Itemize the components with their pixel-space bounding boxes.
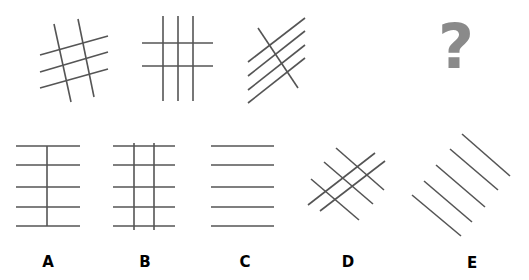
line-segment xyxy=(436,165,485,207)
line-segment xyxy=(40,52,108,72)
line-segment xyxy=(40,69,108,88)
option-label-c[interactable]: C xyxy=(239,255,250,270)
line-segment xyxy=(320,161,385,211)
option-figure-b[interactable] xyxy=(113,143,175,230)
line-segment xyxy=(324,162,373,204)
line-segment xyxy=(462,134,510,176)
option-label-e[interactable]: E xyxy=(467,256,477,271)
line-segment xyxy=(40,36,108,55)
sequence-figures xyxy=(40,16,305,103)
line-segment xyxy=(336,148,384,190)
option-figure-c[interactable] xyxy=(211,146,274,226)
option-figure-e[interactable] xyxy=(412,134,510,236)
line-segment xyxy=(248,31,305,76)
sequence-figure-3 xyxy=(248,18,305,103)
line-segment xyxy=(248,58,305,103)
sequence-figure-1 xyxy=(40,19,108,102)
option-label-b[interactable]: B xyxy=(139,255,150,270)
line-segment xyxy=(248,45,305,90)
option-figure-a[interactable] xyxy=(16,146,80,226)
option-figure-d[interactable] xyxy=(308,148,385,220)
line-segment xyxy=(412,195,461,236)
answer-options xyxy=(16,134,510,236)
question-mark-icon: ? xyxy=(438,16,474,78)
line-segment xyxy=(424,181,472,222)
option-label-d[interactable]: D xyxy=(342,255,354,270)
sequence-figure-2 xyxy=(142,16,213,101)
option-label-a[interactable]: A xyxy=(42,255,54,270)
